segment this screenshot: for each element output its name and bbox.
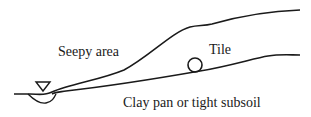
- seepy-area-label: Seepy area: [58, 45, 119, 59]
- tile-label: Tile: [209, 43, 231, 57]
- ditch-channel: [28, 94, 56, 103]
- water-level-triangle-icon: [36, 82, 50, 91]
- ground-surface-line: [14, 10, 300, 95]
- clay-pan-label: Clay pan or tight subsoil: [123, 96, 261, 110]
- seepy-area-tile-drain-diagram: Seepy area Tile Clay pan or tight subsoi…: [0, 0, 311, 117]
- tile-drain-icon: [188, 58, 202, 72]
- clay-pan-line: [52, 55, 300, 94]
